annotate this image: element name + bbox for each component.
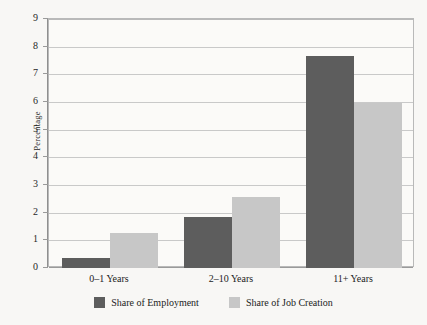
legend-item: Share of Job Creation — [229, 297, 333, 308]
y-tick-label: 2 — [8, 207, 38, 217]
x-tick-label: 2–10 Years — [171, 273, 291, 285]
bar — [232, 197, 280, 268]
y-tick-label: 7 — [8, 68, 38, 78]
y-tick-label: 6 — [8, 96, 38, 106]
bar — [184, 217, 232, 268]
y-tick-mark — [43, 267, 48, 268]
y-tick-label: 8 — [8, 41, 38, 51]
plot-area — [49, 19, 413, 266]
y-tick-label: 5 — [8, 124, 38, 134]
y-tick-label: 3 — [8, 179, 38, 189]
y-tick-label: 1 — [8, 234, 38, 244]
legend-swatch-icon — [94, 297, 105, 308]
bar — [110, 233, 158, 268]
y-tick-label: 9 — [8, 13, 38, 23]
legend-label: Share of Employment — [111, 297, 199, 308]
legend-swatch-icon — [229, 297, 240, 308]
bar — [306, 56, 354, 268]
y-tick-label: 0 — [8, 262, 38, 272]
legend-label: Share of Job Creation — [246, 297, 333, 308]
y-tick-label: 4 — [8, 151, 38, 161]
plot-frame — [48, 18, 414, 267]
bar-group — [171, 19, 293, 268]
bar — [354, 103, 402, 268]
chart-figure: Percentage 0123456789 0–1 Years2–10 Year… — [0, 0, 427, 325]
bar — [62, 258, 110, 268]
chart-legend: Share of EmploymentShare of Job Creation — [0, 297, 427, 308]
x-tick-label: 11+ Years — [293, 273, 413, 285]
legend-item: Share of Employment — [94, 297, 199, 308]
bar-group — [49, 19, 171, 268]
bar-group — [293, 19, 415, 268]
x-tick-label: 0–1 Years — [49, 273, 169, 285]
